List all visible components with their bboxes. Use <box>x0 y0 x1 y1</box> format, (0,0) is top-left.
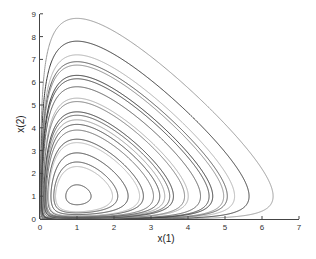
x-tick-label: 2 <box>112 223 117 232</box>
orbit-21-curve <box>66 185 91 205</box>
x-tick-label: 6 <box>260 223 265 232</box>
orbit-1-curve <box>41 18 274 218</box>
y-tick-label: 9 <box>32 10 37 19</box>
y-tick-label: 4 <box>32 124 37 133</box>
axes <box>40 14 300 220</box>
y-tick-label: 1 <box>32 192 37 201</box>
y-tick-label: 6 <box>32 78 37 87</box>
x-tick-label: 4 <box>186 223 191 232</box>
y-tick-label: 5 <box>32 101 37 110</box>
x-tick-label: 5 <box>223 223 228 232</box>
y-tick-label: 7 <box>32 55 37 64</box>
y-tick-label: 8 <box>32 33 37 42</box>
orbit-11-curve <box>44 112 173 218</box>
orbit-curves <box>41 18 274 218</box>
y-tick-label: 3 <box>32 147 37 156</box>
orbit-16-curve <box>48 139 144 216</box>
y-tick-label: 2 <box>32 169 37 178</box>
x-tick-label: 7 <box>297 223 302 232</box>
orbit-9-curve <box>43 98 188 218</box>
x-tick-label: 0 <box>38 223 43 232</box>
y-tick-label: 0 <box>32 215 37 224</box>
x-axis-label: x(1) <box>157 233 174 244</box>
orbit-20-curve <box>56 167 113 212</box>
orbit-2-curve <box>41 41 249 218</box>
x-tick-label: 1 <box>75 223 80 232</box>
phase-portrait-chart: 01234567 0123456789 x(1) x(2) <box>0 0 316 259</box>
y-axis-label: x(2) <box>15 115 26 132</box>
orbit-17-curve <box>48 143 139 216</box>
x-tick-label: 3 <box>149 223 154 232</box>
orbit-6-curve <box>42 75 213 218</box>
